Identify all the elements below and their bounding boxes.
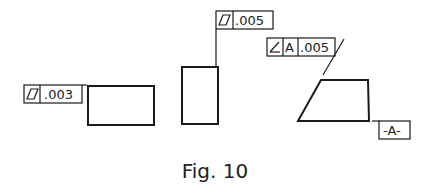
tolerance-value: .003 [44, 87, 73, 102]
tolerance-value: .005 [300, 40, 329, 55]
datum-reference: A [285, 40, 294, 55]
flatness-icon [27, 89, 38, 99]
gdt-figure: .003 .005 A .005 -A- Fig. 10 [0, 0, 431, 194]
rectangle-part [88, 86, 154, 125]
tolerance-value: .005 [235, 13, 264, 28]
figure-caption: Fig. 10 [182, 159, 248, 183]
datum-label: -A- [383, 123, 401, 138]
tall-rectangle-part [182, 67, 218, 124]
flatness-icon [219, 15, 230, 25]
trapezoid-part [298, 80, 369, 121]
flatness-frame-top: .005 [216, 11, 273, 29]
angularity-icon [270, 42, 280, 52]
datum-feature-frame: -A- [372, 121, 410, 139]
angularity-frame: A .005 [267, 38, 335, 56]
flatness-frame-left: .003 [24, 85, 87, 103]
